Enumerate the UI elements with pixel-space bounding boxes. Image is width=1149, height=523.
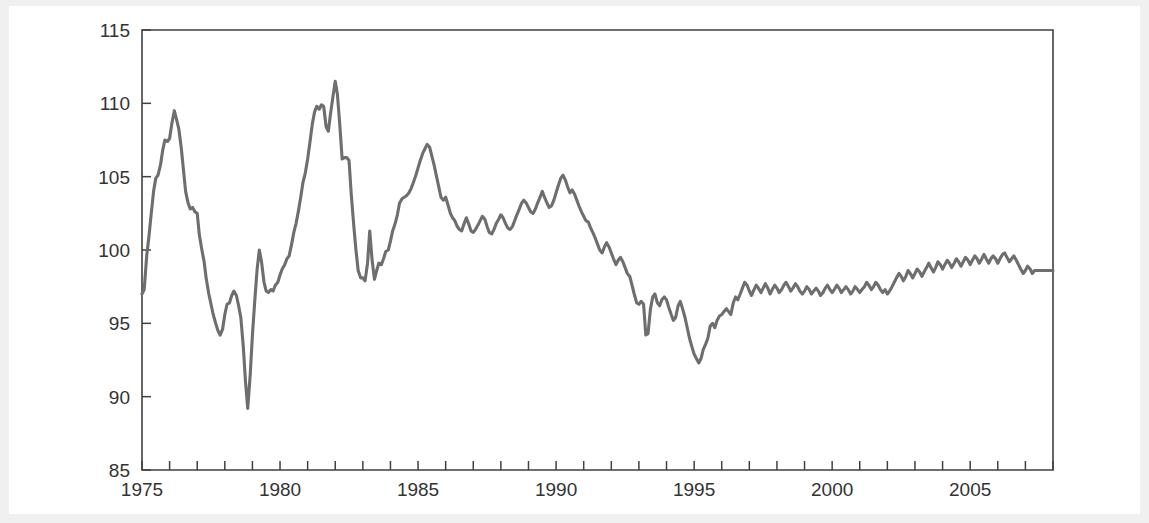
series-line-index — [142, 81, 1053, 408]
data-series — [142, 81, 1053, 408]
x-tick-label: 1990 — [535, 479, 577, 500]
x-tick-label: 1975 — [121, 479, 163, 500]
chart-figure: 859095100105110115 197519801985199019952… — [0, 0, 1149, 523]
y-tick-label: 90 — [109, 387, 130, 408]
y-tick-label: 85 — [109, 460, 130, 481]
plot-frame — [142, 30, 1053, 470]
tick-marks — [142, 30, 1053, 470]
y-tick-label: 100 — [98, 240, 130, 261]
y-axis-tick-labels: 859095100105110115 — [98, 20, 130, 481]
x-axis-tick-labels: 1975198019851990199520002005 — [121, 479, 991, 500]
x-tick-label: 2005 — [949, 479, 991, 500]
y-tick-label: 105 — [98, 167, 130, 188]
line-chart: 859095100105110115 197519801985199019952… — [0, 0, 1149, 523]
y-tick-label: 115 — [100, 20, 130, 41]
x-tick-label: 1995 — [673, 479, 715, 500]
y-tick-label: 110 — [100, 93, 130, 114]
x-tick-label: 1985 — [397, 479, 439, 500]
y-tick-label: 95 — [109, 313, 130, 334]
axes — [142, 30, 1053, 470]
x-tick-label: 2000 — [811, 479, 853, 500]
x-tick-label: 1980 — [259, 479, 301, 500]
